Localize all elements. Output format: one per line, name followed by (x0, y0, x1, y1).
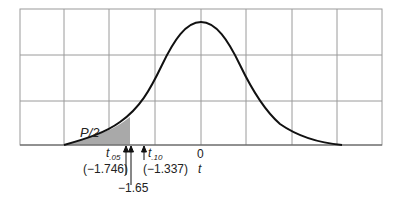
grid (20, 9, 382, 145)
t10-label: t.10 (148, 147, 162, 162)
stat-value: −1.65 (118, 182, 148, 194)
t10-value: (−1.337) (143, 163, 188, 175)
axis-label-t: t (198, 163, 201, 175)
area-label: P/2 (80, 126, 100, 139)
density-curve (64, 22, 342, 145)
t05-subscript: .05 (109, 153, 120, 162)
zero-tick: 0 (197, 148, 204, 160)
t05-label: t.05 (106, 147, 120, 162)
t10-subscript: .10 (151, 153, 162, 162)
t05-value: (−1.746) (83, 163, 128, 175)
